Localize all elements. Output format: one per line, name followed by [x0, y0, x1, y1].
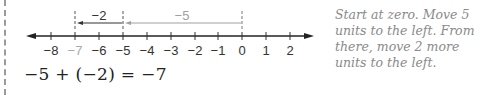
tick-label: −4	[140, 43, 155, 58]
tick-label: 0	[238, 43, 245, 58]
caption-text: Start at zero. Move 5 units to the left.…	[335, 7, 485, 71]
tick-label: −2	[188, 43, 203, 58]
tick-label: 1	[262, 43, 269, 58]
minus-two-arrow-label: −2	[92, 8, 107, 23]
tick-label: −7	[68, 43, 83, 58]
minus-five-arrowhead-icon	[125, 21, 131, 25]
tick-label: −3	[164, 43, 179, 58]
tick-label: 2	[286, 43, 293, 58]
tick-label: −6	[92, 43, 107, 58]
minus-two-arrowhead-icon	[77, 21, 83, 25]
right-arrowhead-icon	[304, 33, 314, 39]
number-line: −8−7−6−5−4−3−2−1012 −5 −2	[0, 0, 330, 60]
minus-five-arrow-label: −5	[175, 8, 190, 23]
tick-label: −5	[116, 43, 131, 58]
equation: −5 + (−2) = −7	[24, 64, 167, 84]
tick-label: −1	[211, 43, 226, 58]
tick-label: −8	[44, 43, 59, 58]
left-arrowhead-icon	[26, 33, 36, 39]
